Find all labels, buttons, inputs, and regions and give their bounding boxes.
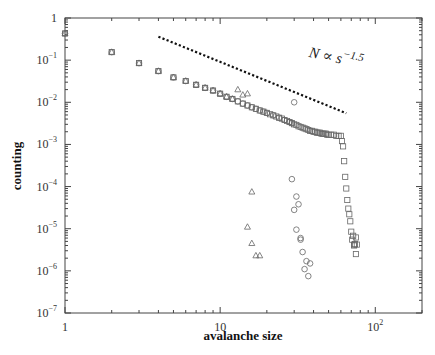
square-marker: [342, 159, 347, 164]
tick-label: 102: [367, 318, 383, 334]
triangle-marker: [249, 189, 255, 194]
circle-marker: [296, 201, 302, 207]
series-circles: [62, 31, 313, 279]
tick-label: 10−5: [36, 220, 57, 236]
circle-marker: [291, 207, 297, 213]
circle-marker: [264, 110, 270, 116]
tick-label: 10−4: [36, 178, 57, 194]
axis-ticks: [65, 18, 422, 313]
tick-label: 1: [62, 320, 68, 334]
tick-label: 1: [51, 11, 57, 25]
circle-marker: [302, 266, 308, 272]
square-marker: [346, 206, 351, 211]
tick-label: 10−2: [36, 93, 57, 109]
log-log-scatter-chart: 110102110−110−210−310−410−510−610−7 N ∝ …: [0, 0, 435, 355]
tick-label: 10−7: [36, 304, 57, 320]
circle-marker: [294, 194, 300, 200]
y-axis-title: counting: [9, 141, 24, 190]
circle-marker: [306, 273, 312, 279]
data-points: [62, 30, 359, 279]
square-marker: [347, 212, 352, 217]
square-marker: [345, 197, 350, 202]
series-triangles: [62, 30, 263, 258]
circle-marker: [291, 99, 297, 105]
circle-marker: [289, 176, 295, 182]
square-marker: [339, 138, 344, 143]
square-marker: [348, 219, 353, 224]
square-marker: [343, 174, 348, 179]
triangle-marker: [244, 90, 250, 95]
x-axis-title: avalanche size: [203, 328, 282, 343]
circle-marker: [300, 249, 306, 255]
tick-label: 10−1: [36, 51, 57, 67]
triangle-marker: [235, 86, 241, 91]
circle-marker: [294, 227, 300, 233]
power-law-annotation: N ∝ s−1.5: [307, 40, 366, 71]
tick-label: 10−3: [36, 135, 57, 151]
plot-frame: [65, 18, 422, 313]
square-marker: [353, 251, 358, 256]
square-marker: [344, 186, 349, 191]
triangle-marker: [249, 240, 255, 245]
circle-marker: [261, 109, 267, 115]
square-marker: [340, 144, 345, 149]
series-squares: [62, 31, 359, 257]
triangle-marker: [244, 224, 250, 229]
tick-label: 10−6: [36, 262, 57, 278]
